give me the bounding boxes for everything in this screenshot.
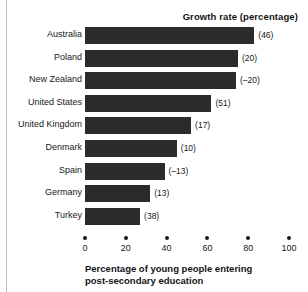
category-label: Spain	[0, 165, 82, 175]
bar-row: United Kingdom(17)	[0, 117, 308, 134]
bar-value-label: (20)	[242, 53, 257, 63]
x-tick-dot	[165, 236, 169, 240]
x-tick-label: 20	[121, 243, 131, 253]
category-label: New Zealand	[0, 74, 82, 84]
x-tick-dot	[124, 236, 128, 240]
x-axis-label-line: post-secondary education	[85, 275, 300, 287]
bar-row: Australia(46)	[0, 27, 308, 44]
x-tick-label: 40	[162, 243, 172, 253]
bar-row: Turkey(38)	[0, 208, 308, 225]
bar-value-label: (13)	[154, 188, 169, 198]
bar	[85, 27, 254, 44]
series-title: Growth rate (percentage)	[183, 11, 298, 22]
x-axis-label: Percentage of young people enteringpost-…	[85, 263, 300, 286]
bar-value-label: (51)	[215, 98, 230, 108]
category-label: United States	[0, 97, 82, 107]
x-tick-label: 100	[281, 243, 296, 253]
category-label: United Kingdom	[0, 119, 82, 129]
category-label: Australia	[0, 29, 82, 39]
x-tick-label: 60	[202, 243, 212, 253]
x-tick-label: 80	[243, 243, 253, 253]
bar	[85, 72, 236, 89]
x-tick-dot	[83, 236, 87, 240]
x-axis: 020406080100	[0, 236, 308, 260]
x-tick-dot	[287, 236, 291, 240]
bar	[85, 185, 150, 202]
bar	[85, 208, 140, 225]
category-label: Turkey	[0, 210, 82, 220]
x-tick-dot	[205, 236, 209, 240]
bar-chart-figure: Growth rate (percentage) Australia(46)Po…	[0, 0, 308, 292]
bar-row: Germany(13)	[0, 185, 308, 202]
bar-row: New Zealand(–20)	[0, 72, 308, 89]
bar-value-label: (17)	[195, 120, 210, 130]
bar	[85, 95, 211, 112]
bar-value-label: (–13)	[169, 166, 189, 176]
bar-value-label: (10)	[181, 143, 196, 153]
bar	[85, 163, 165, 180]
bar-row: Poland(20)	[0, 50, 308, 67]
bar	[85, 50, 238, 67]
bar	[85, 140, 177, 157]
bar-row: Denmark(10)	[0, 140, 308, 157]
bar-value-label: (46)	[258, 30, 273, 40]
x-tick-label: 0	[82, 243, 87, 253]
category-label: Germany	[0, 187, 82, 197]
bar-row: Spain(–13)	[0, 163, 308, 180]
category-label: Denmark	[0, 142, 82, 152]
bar	[85, 117, 191, 134]
bar-row: United States(51)	[0, 95, 308, 112]
category-label: Poland	[0, 52, 82, 62]
x-axis-label-line: Percentage of young people entering	[85, 263, 300, 275]
plot-area: Australia(46)Poland(20)New Zealand(–20)U…	[0, 27, 308, 232]
x-tick-dot	[246, 236, 250, 240]
bar-value-label: (38)	[144, 211, 159, 221]
bar-value-label: (–20)	[240, 75, 260, 85]
